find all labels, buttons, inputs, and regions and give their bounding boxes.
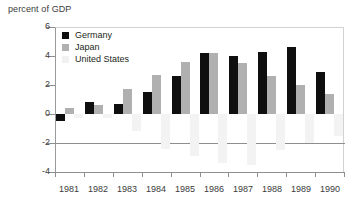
x-tick-label: 1989 <box>286 184 316 194</box>
bar-germany-1986 <box>200 53 209 114</box>
bar-united-states-1981 <box>74 114 83 118</box>
x-tick <box>55 172 56 177</box>
bar-united-states-1985 <box>190 114 199 156</box>
bar-japan-1981 <box>65 108 74 114</box>
y-tick-label: 6 <box>26 22 50 31</box>
legend-swatch-japan <box>62 44 69 51</box>
y-axis-title: percent of GDP <box>8 4 71 14</box>
x-tick-label: 1982 <box>83 184 113 194</box>
bar-japan-1982 <box>94 105 103 114</box>
legend-item-united-states: United States <box>62 54 129 65</box>
x-tick <box>228 172 229 177</box>
y-tick-label: -2 <box>26 138 50 147</box>
bar-japan-1986 <box>209 53 218 114</box>
y-tick-label: 4 <box>26 51 50 60</box>
bar-japan-1985 <box>181 62 190 114</box>
x-tick-label: 1981 <box>54 184 84 194</box>
y-tick-label: -4 <box>26 167 50 176</box>
bar-japan-1988 <box>267 76 276 114</box>
bar-united-states-1989 <box>305 114 314 143</box>
legend-item-germany: Germany <box>62 30 129 41</box>
chart-legend: Germany Japan United States <box>62 30 129 66</box>
x-tick <box>200 172 201 177</box>
bar-united-states-1983 <box>132 114 141 131</box>
bar-united-states-1982 <box>103 114 112 118</box>
legend-swatch-united-states <box>62 56 69 63</box>
bar-germany-1984 <box>143 92 152 114</box>
x-tick-label: 1987 <box>228 184 258 194</box>
bar-united-states-1988 <box>276 114 285 150</box>
x-tick <box>257 172 258 177</box>
x-tick <box>171 172 172 177</box>
x-tick-label: 1985 <box>170 184 200 194</box>
x-tick <box>344 172 345 177</box>
bar-germany-1989 <box>287 47 296 114</box>
bar-japan-1987 <box>238 63 247 114</box>
x-tick-label: 1986 <box>199 184 229 194</box>
bar-germany-1988 <box>258 52 267 114</box>
x-tick-label: 1984 <box>141 184 171 194</box>
bar-japan-1989 <box>296 85 305 114</box>
x-tick-label: 1988 <box>257 184 287 194</box>
bar-united-states-1990 <box>334 114 343 136</box>
legend-label-united-states: United States <box>75 55 129 64</box>
x-tick-label: 1990 <box>315 184 345 194</box>
legend-label-japan: Japan <box>75 43 100 52</box>
bar-germany-1982 <box>85 102 94 114</box>
legend-label-germany: Germany <box>75 31 112 40</box>
x-tick-label: 1983 <box>112 184 142 194</box>
bar-germany-1987 <box>229 56 238 114</box>
bar-japan-1984 <box>152 75 161 114</box>
chart-container: percent of GDP 6420-2-4 1981198219831984… <box>0 0 357 206</box>
x-tick <box>84 172 85 177</box>
bar-united-states-1984 <box>161 114 170 149</box>
bar-germany-1983 <box>114 104 123 114</box>
bar-germany-1981 <box>56 114 65 121</box>
legend-item-japan: Japan <box>62 42 129 53</box>
y-tick-label: 0 <box>26 109 50 118</box>
bar-united-states-1987 <box>247 114 256 165</box>
y-tick-label: 2 <box>26 80 50 89</box>
legend-swatch-germany <box>62 32 69 39</box>
bar-united-states-1986 <box>218 114 227 163</box>
bar-germany-1985 <box>172 76 181 114</box>
bar-japan-1990 <box>325 94 334 114</box>
x-tick <box>286 172 287 177</box>
bar-germany-1990 <box>316 72 325 114</box>
x-tick <box>315 172 316 177</box>
bar-japan-1983 <box>123 89 132 114</box>
x-tick <box>113 172 114 177</box>
x-tick <box>142 172 143 177</box>
zero-line <box>55 143 345 144</box>
